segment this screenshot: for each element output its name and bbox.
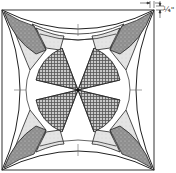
center-point <box>76 88 79 91</box>
seam-allowance-label: ¼" <box>163 5 174 14</box>
quilt-block-diagram <box>0 0 176 173</box>
